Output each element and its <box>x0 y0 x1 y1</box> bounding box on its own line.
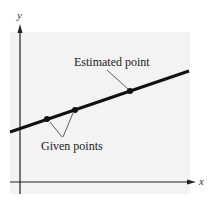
given-points-label: Given points <box>41 140 103 152</box>
x-axis-label: x <box>199 176 204 187</box>
given-point-1 <box>44 116 50 122</box>
linear-extrapolation-diagram <box>0 0 211 206</box>
y-axis-arrow-icon <box>18 24 23 33</box>
given-point-2 <box>72 107 78 113</box>
y-axis-label: y <box>17 10 22 21</box>
estimated-point-label: Estimated point <box>74 56 150 68</box>
x-axis-arrow-icon <box>187 180 196 185</box>
estimated-point <box>127 88 133 94</box>
